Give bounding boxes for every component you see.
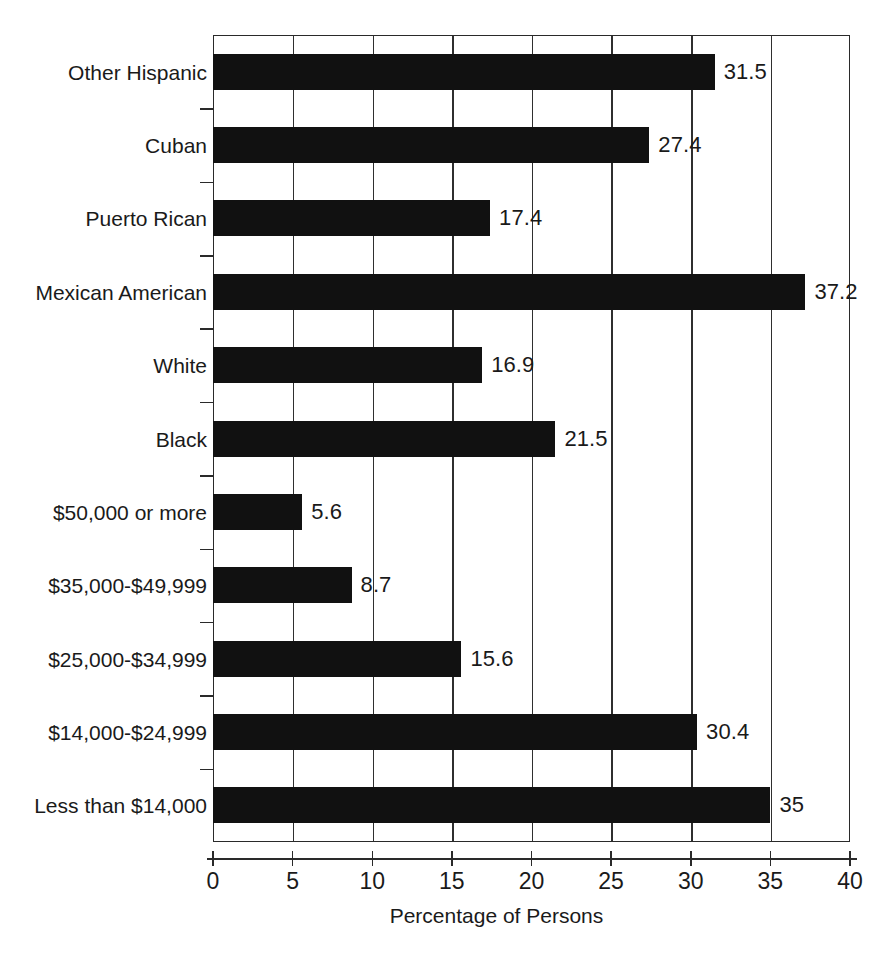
bar-value-label: 21.5 xyxy=(564,427,607,449)
x-axis-title-text: Percentage of Persons xyxy=(390,905,604,926)
category-label: $25,000-$34,999 xyxy=(7,649,207,670)
x-axis-tick-label: 10 xyxy=(359,870,385,893)
bar xyxy=(213,347,482,383)
x-axis-tick xyxy=(770,851,772,866)
x-axis-tick-label: 40 xyxy=(837,870,863,893)
bar-row: 16.9 xyxy=(213,347,850,383)
bar-value-label: 8.7 xyxy=(361,574,392,596)
x-axis-tick xyxy=(212,851,214,866)
bar xyxy=(213,787,770,823)
bar-row: 8.7 xyxy=(213,567,850,603)
x-axis-tick-label: 30 xyxy=(678,870,704,893)
bar-row: 37.2 xyxy=(213,274,850,310)
category-label: Other Hispanic xyxy=(7,62,207,83)
x-axis-tick xyxy=(372,851,374,866)
x-axis-tick xyxy=(610,851,612,866)
x-axis-title: Percentage of Persons xyxy=(0,905,885,926)
bar-value-label: 35 xyxy=(779,794,804,816)
bar-row: 5.6 xyxy=(213,494,850,530)
bar-value-label: 16.9 xyxy=(491,354,534,376)
category-label: $14,000-$24,999 xyxy=(7,722,207,743)
bar-row: 35 xyxy=(213,787,850,823)
bar-value-label: 31.5 xyxy=(724,60,767,82)
category-label: Black xyxy=(7,429,207,450)
bar-row: 31.5 xyxy=(213,54,850,90)
category-label: $50,000 or more xyxy=(7,502,207,523)
x-axis-tick xyxy=(531,851,533,866)
x-axis-tick xyxy=(690,851,692,866)
bar xyxy=(213,54,715,90)
category-label: White xyxy=(7,355,207,376)
category-label: Less than $14,000 xyxy=(7,795,207,816)
bar xyxy=(213,641,461,677)
bar xyxy=(213,714,697,750)
bar-value-label: 17.4 xyxy=(499,207,542,229)
bar-value-label: 30.4 xyxy=(706,721,749,743)
bar-value-label: 15.6 xyxy=(470,647,513,669)
bar xyxy=(213,127,649,163)
bar xyxy=(213,494,302,530)
x-axis-tick xyxy=(849,851,851,866)
bar xyxy=(213,274,805,310)
bar-chart: Other HispanicCubanPuerto RicanMexican A… xyxy=(0,0,885,955)
category-label: Puerto Rican xyxy=(7,208,207,229)
x-axis-tick-label: 25 xyxy=(598,870,624,893)
bar-row: 15.6 xyxy=(213,641,850,677)
category-label: $35,000-$49,999 xyxy=(7,575,207,596)
bar-row: 21.5 xyxy=(213,421,850,457)
x-axis-tick-label: 20 xyxy=(519,870,545,893)
x-axis-tick xyxy=(451,851,453,866)
x-axis-tick-label: 0 xyxy=(207,870,220,893)
bar xyxy=(213,200,490,236)
bar-row: 27.4 xyxy=(213,127,850,163)
bar-row: 17.4 xyxy=(213,200,850,236)
y-axis-category-labels: Other HispanicCubanPuerto RicanMexican A… xyxy=(0,35,207,842)
bars-layer: 31.527.417.437.216.921.55.68.715.630.435 xyxy=(213,35,850,842)
bar-value-label: 27.4 xyxy=(658,134,701,156)
x-axis-tick xyxy=(292,851,294,866)
category-label: Mexican American xyxy=(7,282,207,303)
x-axis-tick-label: 15 xyxy=(439,870,465,893)
bar xyxy=(213,421,555,457)
bar-row: 30.4 xyxy=(213,714,850,750)
bar-value-label: 37.2 xyxy=(814,280,857,302)
x-axis-tick-label: 35 xyxy=(758,870,784,893)
category-label: Cuban xyxy=(7,135,207,156)
bar xyxy=(213,567,352,603)
bar-value-label: 5.6 xyxy=(311,500,342,522)
x-axis-tick-label: 5 xyxy=(286,870,299,893)
